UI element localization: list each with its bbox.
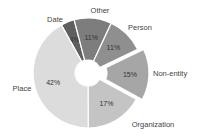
category-label-non-entity: Non-entity xyxy=(153,69,187,78)
category-label-place: Place xyxy=(13,84,32,93)
category-label-date: Date xyxy=(47,15,63,24)
category-label-person: Person xyxy=(128,23,152,32)
value-label-place: 42% xyxy=(46,79,60,86)
value-label-organization: 17% xyxy=(99,100,113,107)
chart-canvas: 4%Date11%Other11%Person15%Non-entity17%O… xyxy=(0,0,197,139)
category-label-organization: Organization xyxy=(132,120,175,129)
value-label-person: 11% xyxy=(107,44,121,51)
category-label-other: Other xyxy=(91,6,110,15)
doughnut-chart: 4%Date11%Other11%Person15%Non-entity17%O… xyxy=(0,0,197,139)
value-label-non-entity: 15% xyxy=(123,71,137,78)
value-label-other: 11% xyxy=(85,34,99,41)
